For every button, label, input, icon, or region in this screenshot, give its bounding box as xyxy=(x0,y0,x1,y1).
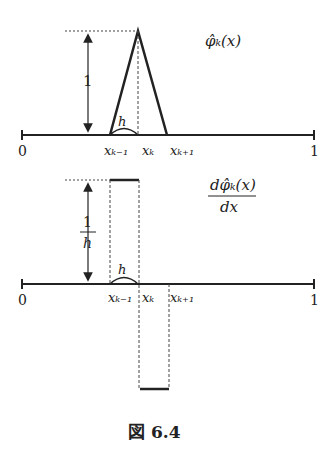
svg-text:xₖ₋₁: xₖ₋₁ xyxy=(108,290,132,305)
derivative-graph: 1 h h dφ̂ₖ(x) dx 0 1 xₖ₋₁ xₖ xₖ₊₁ xyxy=(18,176,319,389)
svg-text:0: 0 xyxy=(18,292,27,308)
svg-text:xₖ₊₁: xₖ₊₁ xyxy=(170,143,194,158)
svg-text:1: 1 xyxy=(310,292,319,308)
svg-text:0: 0 xyxy=(18,143,27,159)
svg-text:1: 1 xyxy=(83,214,92,230)
svg-text:xₖ: xₖ xyxy=(142,290,154,305)
svg-text:xₖ: xₖ xyxy=(142,143,154,158)
hat-function-graph: 1 h φ̂ₖ(x) 0 1 xₖ₋₁ xₖ xₖ₊₁ xyxy=(18,31,319,159)
svg-text:dφ̂ₖ(x): dφ̂ₖ(x) xyxy=(210,176,256,194)
svg-text:h: h xyxy=(83,235,92,251)
svg-text:φ̂ₖ(x): φ̂ₖ(x) xyxy=(205,32,241,50)
svg-text:xₖ₋₁: xₖ₋₁ xyxy=(104,143,128,158)
svg-text:h: h xyxy=(118,114,126,129)
svg-text:xₖ₊₁: xₖ₊₁ xyxy=(170,290,194,305)
figure-caption: 図 6.4 xyxy=(128,422,181,442)
figure: 1 h φ̂ₖ(x) 0 1 xₖ₋₁ xₖ xₖ₊₁ 1 h h dφ̂ₖ(x… xyxy=(0,0,336,460)
svg-text:h: h xyxy=(118,262,126,277)
svg-text:1: 1 xyxy=(310,143,319,159)
svg-text:1: 1 xyxy=(83,72,93,90)
svg-text:dx: dx xyxy=(220,198,239,216)
